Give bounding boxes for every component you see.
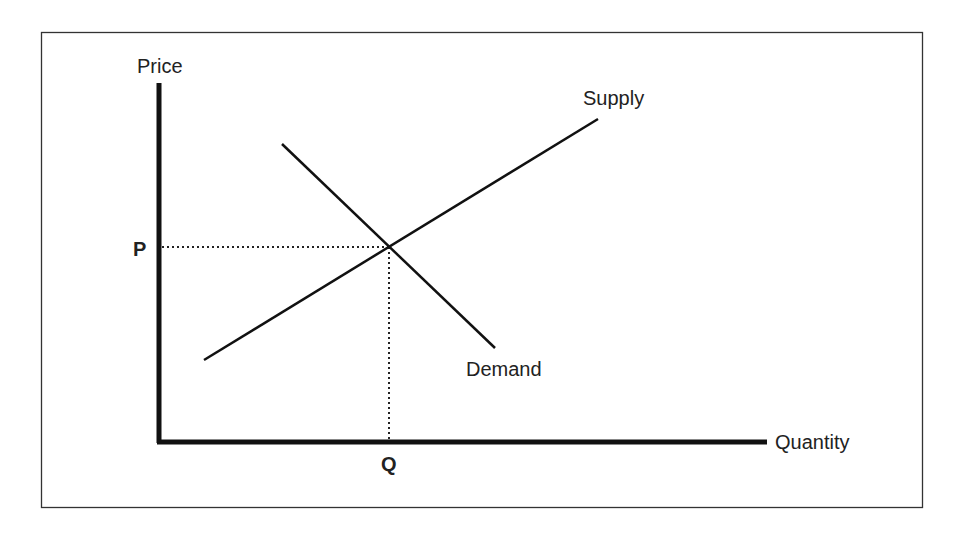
x-axis-label: Quantity (775, 431, 849, 453)
demand-label: Demand (466, 358, 542, 380)
supply-line (204, 119, 598, 360)
price-marker: P (133, 238, 146, 260)
supply-demand-diagram: Price Quantity Supply Demand P Q (0, 0, 962, 533)
supply-label: Supply (583, 87, 644, 109)
y-axis-label: Price (137, 55, 183, 77)
quantity-marker: Q (381, 453, 397, 475)
